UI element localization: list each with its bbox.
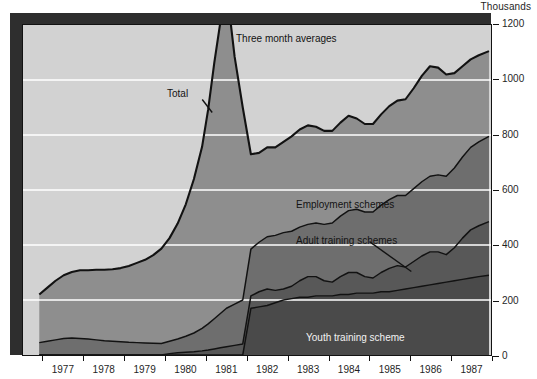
y-tick-label-400: 400 (502, 240, 519, 250)
y-tick-800 (493, 135, 499, 136)
y-tick-200 (493, 301, 499, 302)
annotation-youth-training-scheme: Youth training scheme (306, 332, 405, 343)
x-tick-1979 (124, 356, 125, 361)
x-tick-label-1982: 1982 (256, 364, 278, 375)
y-tick-label-600: 600 (502, 185, 519, 195)
x-tick-1983 (288, 356, 289, 361)
x-tick-1984 (329, 356, 330, 361)
annotation-three-month-averages: Three month averages (236, 33, 337, 44)
y-tick-600 (493, 190, 499, 191)
y-tick-1200 (493, 24, 499, 25)
x-tick-1988 (492, 356, 493, 361)
x-tick-label-1981: 1981 (215, 364, 237, 375)
y-tick-400 (493, 245, 499, 246)
annotation-employment-schemes: Employment schemes (296, 199, 394, 210)
x-tick-1977 (42, 356, 43, 361)
plot-area (22, 24, 492, 356)
y-tick-label-800: 800 (502, 130, 519, 140)
annotation-total: Total (167, 88, 188, 99)
y-tick-1000 (493, 79, 499, 80)
x-tick-1987 (451, 356, 452, 361)
x-tick-label-1977: 1977 (52, 364, 74, 375)
annotation-adult-training-schemes: Adult training schemes (296, 235, 397, 246)
x-tick-1982 (247, 356, 248, 361)
x-tick-label-1987: 1987 (460, 364, 482, 375)
x-tick-1978 (83, 356, 84, 361)
x-tick-label-1984: 1984 (338, 364, 360, 375)
y-tick-label-1200: 1200 (502, 19, 524, 29)
x-tick-label-1979: 1979 (133, 364, 155, 375)
x-tick-label-1983: 1983 (297, 364, 319, 375)
x-tick-1986 (410, 356, 411, 361)
x-tick-1981 (206, 356, 207, 361)
x-tick-label-1985: 1985 (379, 364, 401, 375)
x-tick-label-1986: 1986 (420, 364, 442, 375)
y-tick-label-1000: 1000 (502, 74, 524, 84)
chart-figure: Thousands Three month averages Total Emp… (0, 0, 537, 379)
x-tick-label-1978: 1978 (93, 364, 115, 375)
y-tick-label-200: 200 (502, 296, 519, 306)
x-tick-label-1980: 1980 (174, 364, 196, 375)
stacked-area-svg (23, 25, 491, 355)
x-tick-1980 (165, 356, 166, 361)
x-axis: 1977197819791980198119821983198419851986… (0, 356, 537, 379)
x-tick-1985 (369, 356, 370, 361)
y-axis: 020040060080010001200 (493, 0, 537, 379)
